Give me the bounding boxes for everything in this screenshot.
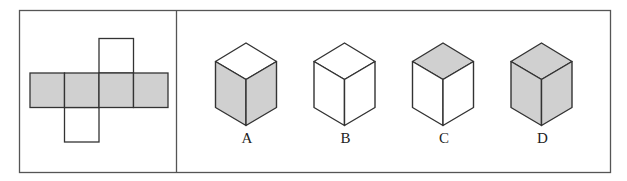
net-square-bottom [65,108,100,143]
answer-options: ABCD [216,43,573,146]
option-label: B [340,130,350,146]
net-square-row-2 [65,73,100,108]
option-b[interactable]: B [314,43,375,146]
net-square-row-3 [99,73,134,108]
option-a[interactable]: A [216,43,277,146]
puzzle-figure: ABCD [0,0,627,181]
option-label: C [439,130,449,146]
option-label: A [242,130,253,146]
option-d[interactable]: D [511,43,572,146]
option-label: D [537,130,548,146]
cube-net [30,39,168,143]
net-square-top [99,39,134,74]
net-square-row-1 [30,73,65,108]
option-c[interactable]: C [413,43,474,146]
net-square-row-4 [134,73,169,108]
